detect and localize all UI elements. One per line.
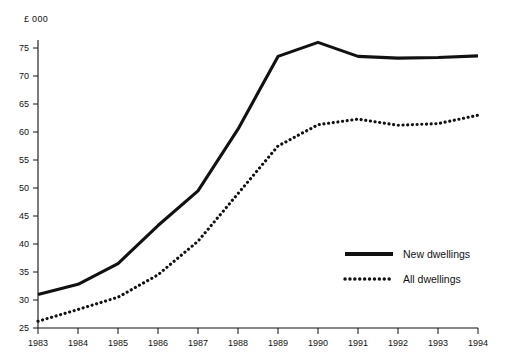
x-tick-label: 1986 [148,338,168,348]
y-tick-label: 30 [19,295,29,305]
x-axis-ticks: 1983198419851986198719881989199019911992… [28,328,488,348]
chart-container: £ 000 2530354045505560657075 19831984198… [0,0,516,363]
x-tick-label: 1984 [68,338,88,348]
y-tick-label: 25 [19,323,29,333]
x-tick-label: 1987 [188,338,208,348]
y-tick-label: 60 [19,127,29,137]
x-tick-label: 1993 [428,338,448,348]
legend-label: New dwellings [403,248,470,260]
y-tick-label: 75 [19,43,29,53]
legend-label: All dwellings [403,273,461,285]
x-tick-label: 1992 [388,338,408,348]
x-tick-label: 1990 [308,338,328,348]
x-tick-label: 1991 [348,338,368,348]
y-axis-ticks: 2530354045505560657075 [19,43,38,333]
y-tick-label: 55 [19,155,29,165]
y-tick-label: 65 [19,99,29,109]
series-line-all-dwellings [38,115,478,321]
x-tick-label: 1988 [228,338,248,348]
x-tick-label: 1994 [468,338,488,348]
line-chart-plot: 2530354045505560657075 19831984198519861… [0,0,516,363]
y-tick-label: 35 [19,267,29,277]
y-tick-label: 70 [19,71,29,81]
chart-legend: New dwellingsAll dwellings [345,248,470,285]
x-tick-label: 1985 [108,338,128,348]
y-tick-label: 45 [19,211,29,221]
x-tick-label: 1983 [28,338,48,348]
y-tick-label: 50 [19,183,29,193]
y-tick-label: 40 [19,239,29,249]
x-tick-label: 1989 [268,338,288,348]
